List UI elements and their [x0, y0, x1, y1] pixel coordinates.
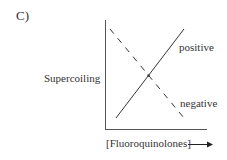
negative-line — [110, 29, 184, 118]
positive-label: positive — [179, 41, 214, 53]
negative-label: negative — [180, 97, 217, 109]
intersection-point — [147, 74, 149, 76]
x-axis-label: [Fluoroquinolones] — [106, 137, 191, 149]
right-arrow-icon — [188, 142, 213, 148]
positive-line — [116, 29, 184, 118]
plot-area — [0, 0, 227, 160]
